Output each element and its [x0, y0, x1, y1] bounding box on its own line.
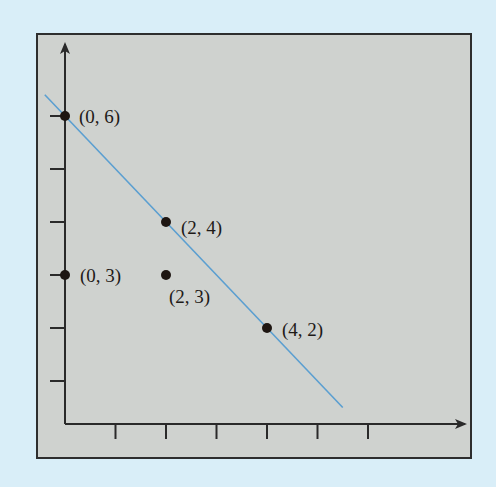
fitted-line	[45, 95, 343, 408]
data-point	[161, 217, 171, 227]
scatter-plot: (0, 6)(2, 4)(0, 3)(2, 3)(4, 2)	[0, 0, 496, 487]
point-labels: (0, 6)(2, 4)(0, 3)(2, 3)(4, 2)	[79, 106, 323, 341]
data-point	[161, 270, 171, 280]
trend-line	[45, 95, 343, 408]
axes	[65, 44, 465, 424]
x-ticks	[116, 424, 369, 439]
point-label: (4, 2)	[282, 319, 323, 341]
y-ticks	[50, 116, 65, 381]
point-label: (0, 6)	[79, 106, 120, 128]
point-label: (2, 4)	[181, 217, 222, 239]
data-point	[262, 323, 272, 333]
point-label: (2, 3)	[169, 286, 210, 308]
data-point	[60, 111, 70, 121]
data-point	[60, 270, 70, 280]
point-label: (0, 3)	[80, 265, 121, 287]
